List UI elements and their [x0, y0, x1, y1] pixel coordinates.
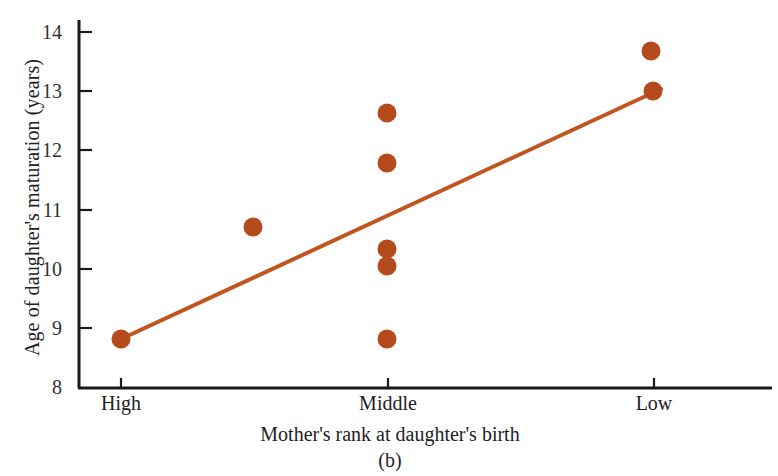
axis-lines: [78, 20, 772, 388]
y-tick-label-9: 9: [22, 317, 62, 340]
y-tick-label-12: 12: [22, 139, 62, 162]
data-point: [378, 330, 397, 349]
data-points: [112, 42, 663, 349]
trend-line: [121, 89, 661, 339]
y-axis-ticks: [80, 32, 92, 328]
x-tick-label-high: High: [41, 392, 201, 415]
y-tick-label-11: 11: [22, 199, 62, 222]
x-tick-label-middle: Middle: [308, 392, 468, 415]
data-point: [378, 257, 397, 276]
data-point: [244, 218, 263, 237]
data-point: [642, 42, 661, 61]
data-point: [112, 330, 131, 349]
panel-caption: (b): [80, 449, 700, 472]
data-point: [378, 104, 397, 123]
y-tick-label-14: 14: [22, 21, 62, 44]
chart-figure: Age of daughter's maturation (years) 14 …: [0, 0, 778, 476]
x-axis-ticks: [121, 378, 654, 387]
data-point: [378, 240, 397, 259]
data-point: [644, 82, 663, 101]
x-axis-label: Mother's rank at daughter's birth: [80, 423, 700, 446]
y-tick-label-13: 13: [22, 80, 62, 103]
y-tick-label-10: 10: [22, 258, 62, 281]
x-tick-label-low: Low: [574, 392, 734, 415]
data-point: [378, 154, 397, 173]
